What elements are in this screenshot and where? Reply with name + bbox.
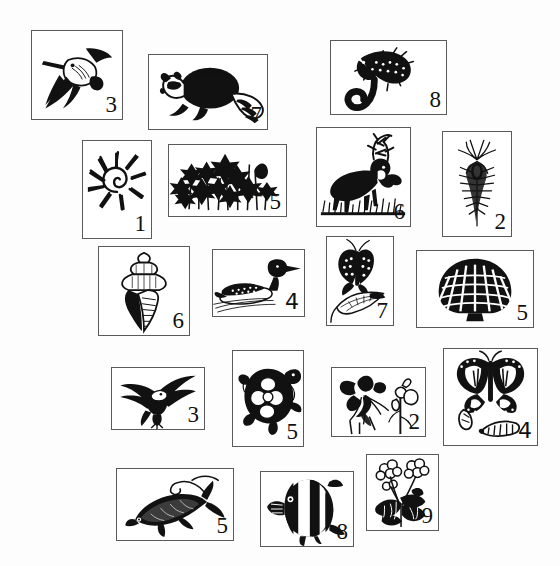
card-wildflowers[interactable]: 5 xyxy=(168,144,287,217)
card-raccoon[interactable]: 7 xyxy=(148,54,268,130)
card-lizard[interactable]: 8 xyxy=(330,40,447,115)
card-number-label: 8 xyxy=(430,88,442,114)
card-thistle[interactable]: 2 xyxy=(442,131,512,237)
card-number-label: 1 xyxy=(135,212,147,238)
wildflowers-illustration xyxy=(169,145,286,216)
card-conch[interactable]: 6 xyxy=(98,246,190,336)
card-shell-murex[interactable]: 1 xyxy=(82,140,152,239)
card-number-label: 4 xyxy=(518,420,532,445)
card-number-label: 7 xyxy=(377,299,389,325)
card-number-label: 9 xyxy=(422,504,434,530)
card-turtle[interactable]: 5 xyxy=(232,350,304,447)
card-number-label: 2 xyxy=(495,210,507,236)
card-monarch[interactable]: 4 xyxy=(443,348,538,446)
card-number-label: 7 xyxy=(251,103,263,129)
card-columbine[interactable]: 2 xyxy=(331,367,426,437)
card-number-label: 5 xyxy=(217,514,229,540)
card-loon[interactable]: 4 xyxy=(212,249,305,317)
card-number-label: 2 xyxy=(409,410,421,436)
card-trout[interactable]: 5 xyxy=(116,468,234,541)
card-number-label: 3 xyxy=(106,93,118,119)
card-number-label: 6 xyxy=(173,309,185,335)
card-number-label: 8 xyxy=(337,520,349,546)
raccoon-illustration xyxy=(149,55,267,129)
card-scallop[interactable]: 5 xyxy=(416,250,534,328)
card-number-label: 4 xyxy=(285,291,299,316)
card-angelfish[interactable]: 8 xyxy=(260,471,354,547)
card-woodpecker[interactable]: 3 xyxy=(31,30,123,120)
card-number-label: 5 xyxy=(287,420,299,446)
card-elk[interactable]: 6 xyxy=(316,127,411,227)
card-eagle[interactable]: 3 xyxy=(111,367,205,430)
card-geranium[interactable]: 9 xyxy=(366,454,439,531)
card-number-label: 6 xyxy=(394,200,406,226)
card-number-label: 5 xyxy=(270,190,282,216)
illustration-sheet: 3 7 xyxy=(0,0,560,566)
card-swallowtail[interactable]: 7 xyxy=(326,236,394,326)
card-number-label: 3 xyxy=(188,403,200,429)
card-number-label: 5 xyxy=(517,301,529,327)
